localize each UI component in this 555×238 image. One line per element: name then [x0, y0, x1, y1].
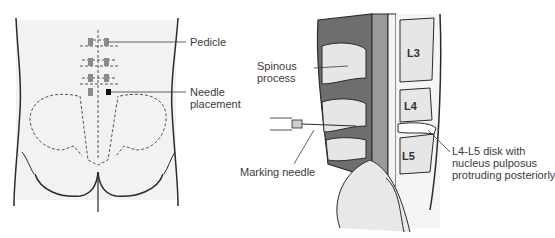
back-outline [14, 18, 178, 212]
vertebra-l5: L5 [402, 150, 415, 162]
label-disk-1: L4-L5 disk with [452, 145, 525, 157]
spine-sagittal [317, 14, 440, 232]
label-disk-3: protruding posteriorly [452, 169, 555, 181]
anatomy-diagram [0, 0, 555, 238]
label-needle-placement-1: Needle [190, 86, 225, 98]
label-spinous-1: Spinous [257, 60, 297, 72]
label-needle-placement-2: placement [190, 98, 241, 110]
vertebra-l4: L4 [404, 100, 417, 112]
label-marking-needle: Marking needle [240, 166, 315, 178]
label-pedicle: Pedicle [190, 36, 226, 48]
needle-placement-marker [106, 89, 111, 95]
label-disk-2: nucleus pulposus [452, 157, 537, 169]
vertebra-l3: L3 [407, 47, 420, 59]
label-spinous-2: process [257, 72, 296, 84]
